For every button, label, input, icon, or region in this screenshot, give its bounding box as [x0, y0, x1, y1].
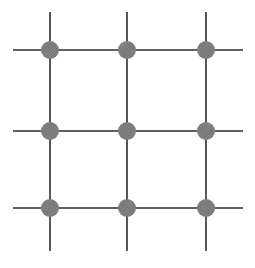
node-r2c1: [41, 122, 59, 140]
node-r3c1: [41, 199, 59, 217]
node-r1c1: [41, 41, 59, 59]
grid-nodes: [41, 41, 215, 217]
node-r2c3: [197, 122, 215, 140]
node-r3c3: [197, 199, 215, 217]
node-r2c2: [118, 122, 136, 140]
node-r1c3: [197, 41, 215, 59]
lattice-diagram: [0, 0, 255, 268]
node-r3c2: [118, 199, 136, 217]
node-r1c2: [118, 41, 136, 59]
